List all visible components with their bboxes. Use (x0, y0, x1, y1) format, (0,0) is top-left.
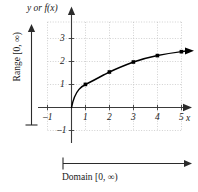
range-indicator (26, 30, 38, 125)
range-arrow-icon (28, 24, 35, 32)
y-tick-label-3: 3 (60, 34, 65, 44)
x-tick-label-neg1: –1 (43, 113, 53, 123)
x-axis (38, 104, 192, 111)
x-tick-label-1: 1 (83, 113, 88, 123)
x-tick-label-3: 3 (131, 113, 136, 123)
domain-annotation-label: Domain [0, ∞) (62, 173, 118, 183)
x-axis-title: x (186, 114, 190, 124)
data-points (84, 50, 184, 86)
range-annotation-label: Range [0, ∞) (13, 27, 23, 87)
y-axis (68, 7, 75, 144)
x-tick-label-2: 2 (107, 113, 112, 123)
x-tick-label-4: 4 (155, 113, 160, 123)
domain-indicator (63, 158, 185, 170)
y-axis-title: y or f(x) (27, 4, 58, 14)
x-tick-label-5: 5 (179, 113, 184, 123)
plot-canvas (0, 0, 198, 192)
y-tick-label-1: 1 (60, 80, 65, 90)
domain-arrow-icon (184, 160, 192, 167)
function-graph-figure: y or f(x) x –1 1 2 3 4 5 3 2 1 –1 Range … (0, 0, 198, 192)
y-tick-label-2: 2 (60, 57, 65, 67)
sqrt-curve (72, 47, 195, 107)
y-tick-label-neg1: –1 (57, 126, 67, 136)
grid-lines (48, 22, 182, 131)
